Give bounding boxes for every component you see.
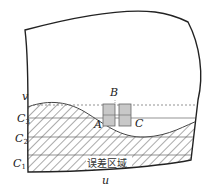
error-region-label: 误差区域 [87, 157, 127, 169]
label-b: B [109, 86, 118, 99]
label-c2: C2 [15, 132, 28, 146]
diagram-canvas: B A C v C3 C2 C1 u 误差区域 [0, 0, 210, 189]
label-v: v [22, 90, 29, 103]
label-u: u [102, 174, 109, 187]
label-c: C [135, 117, 144, 130]
label-a: A [93, 118, 102, 131]
label-c1: C1 [13, 157, 26, 171]
